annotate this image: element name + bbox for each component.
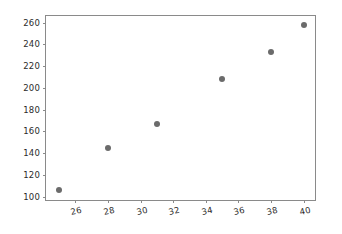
plot-axes-frame: 1001201401601802002202402602628303234363… [45,15,316,201]
x-axis-tick [304,200,305,203]
x-axis-tick [173,200,174,203]
x-axis-tick-label: 40 [298,205,311,217]
y-axis-tick [43,88,46,89]
scatter-point [154,121,160,127]
x-axis-tick [108,200,109,203]
scatter-point [268,49,274,55]
x-axis-tick-label: 36 [233,205,246,217]
y-axis-tick [43,153,46,154]
x-axis-tick [238,200,239,203]
y-axis-tick [43,197,46,198]
x-axis-tick-label: 34 [200,205,213,217]
scatter-point [301,22,307,28]
y-axis-tick [43,44,46,45]
y-axis-tick-label: 260 [23,18,40,28]
scatter-point [105,145,111,151]
x-axis-tick [75,200,76,203]
x-axis-tick-label: 28 [102,205,115,217]
scatter-point [56,187,62,193]
plot-area: 1001201401601802002202402602628303234363… [46,16,315,200]
scatter-chart-figure: 1001201401601802002202402602628303234363… [0,0,342,234]
y-axis-tick [43,23,46,24]
y-axis-tick-label: 120 [23,170,40,180]
x-axis-tick [206,200,207,203]
scatter-point [219,76,225,82]
y-axis-tick [43,131,46,132]
y-axis-tick-label: 160 [23,126,40,136]
x-axis-tick [271,200,272,203]
x-axis-tick-label: 32 [168,205,181,217]
y-axis-tick [43,175,46,176]
y-axis-tick-label: 220 [23,61,40,71]
x-axis-tick-label: 30 [135,205,148,217]
y-axis-tick-label: 180 [23,105,40,115]
y-axis-tick [43,110,46,111]
x-axis-tick-label: 26 [70,205,83,217]
y-axis-tick-label: 200 [23,83,40,93]
x-axis-tick [141,200,142,203]
y-axis-tick-label: 100 [23,192,40,202]
x-axis-tick-label: 38 [265,205,278,217]
y-axis-tick-label: 240 [23,39,40,49]
y-axis-tick-label: 140 [23,148,40,158]
y-axis-tick [43,66,46,67]
